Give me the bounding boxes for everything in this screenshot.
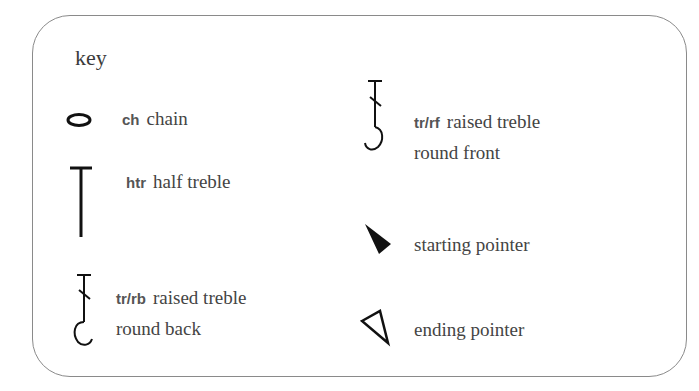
entry-abbr: htr [126,174,146,191]
entry-abbr: tr/rb [116,290,146,307]
entry-label: ending pointer [414,319,524,340]
raised-treble-front-icon [362,77,392,157]
entry-raised-treble-back: tr/rbraised treble round back [116,283,246,344]
entry-starting-pointer: starting pointer [414,230,530,260]
half-treble-icon [68,165,94,240]
entry-chain: chchain [122,104,188,135]
key-title: key [75,45,107,71]
entry-abbr: tr/rf [414,114,440,131]
entry-label: raised treble [153,287,246,308]
chain-oval-icon [65,111,93,129]
entry-label: chain [147,108,188,129]
entry-raised-treble-front: tr/rfraised treble round front [414,107,540,168]
entry-label-line2: round back [116,314,246,344]
ending-pointer-icon [358,307,392,347]
entry-half-treble: htrhalf treble [126,167,231,198]
raised-treble-back-icon [70,272,100,352]
entry-label: raised treble [447,111,540,132]
entry-ending-pointer: ending pointer [414,315,524,345]
entry-label: starting pointer [414,234,530,255]
entry-abbr: ch [122,111,140,128]
entry-label-line2: round front [414,138,540,168]
entry-label: half treble [153,171,231,192]
starting-pointer-icon [362,222,394,258]
